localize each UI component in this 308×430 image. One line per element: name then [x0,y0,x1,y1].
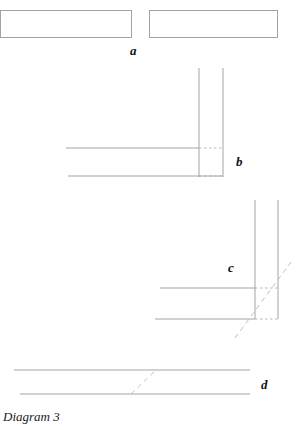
figure-d-scarf-diagonal [131,369,157,394]
figure-b-group [66,68,223,177]
figure-c-mitre-diagonal [235,262,291,338]
diagram-canvas [0,0,308,430]
figure-a-left-member [1,11,132,38]
figure-label-d: d [261,378,268,391]
figure-label-b: b [236,155,243,168]
figure-a-right-member [150,11,278,38]
figure-c-group [155,200,291,338]
figure-a-group [1,11,278,38]
figure-label-a: a [130,44,137,57]
figure-label-c: c [228,261,234,274]
figure-d-group [14,369,250,394]
diagram-caption: Diagram 3 [3,410,60,423]
diagram-root: a b c d Diagram 3 [0,0,308,430]
